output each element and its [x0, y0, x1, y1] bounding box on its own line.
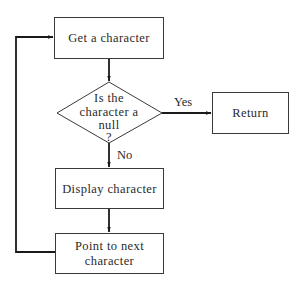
flowchart: Yes No Get a character Is the character … — [0, 0, 303, 286]
edge-label-no: No — [117, 148, 132, 162]
node-label-line-1: Is the — [94, 91, 124, 105]
node-label-line-4: ? — [106, 130, 112, 144]
node-get-character: Get a character — [55, 18, 164, 59]
node-label: Display character — [62, 182, 157, 196]
node-label-line-2: character — [85, 254, 135, 268]
node-label: Get a character — [68, 31, 150, 45]
node-return: Return — [213, 93, 289, 134]
node-label: Return — [232, 106, 269, 120]
node-display-character: Display character — [56, 169, 164, 209]
node-label-line-2: character a — [80, 105, 139, 119]
edge-label-yes: Yes — [174, 95, 192, 109]
node-point-next-character: Point to next character — [56, 234, 164, 274]
edge-loop-back — [16, 37, 55, 252]
node-label-line-1: Point to next — [75, 239, 144, 253]
node-is-null-decision: Is the character a null ? — [57, 82, 162, 144]
edges — [16, 37, 211, 252]
